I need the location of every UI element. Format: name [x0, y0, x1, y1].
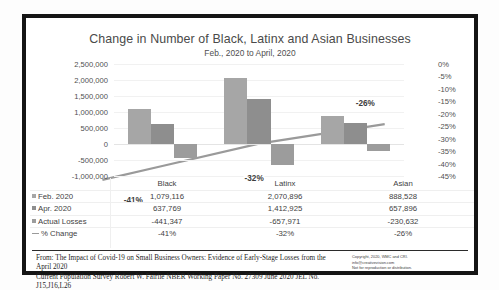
- y2-axis-tick-label: -30%: [438, 134, 478, 143]
- data-label-asian: -26%: [355, 98, 376, 107]
- bar-asian-series3: [367, 144, 390, 151]
- chart-subtitle: Feb., 2020 to April, 2020: [26, 48, 474, 58]
- column-header-asian: Asian: [348, 178, 458, 190]
- cell-feb2020-latinx: 2,070,896: [230, 191, 340, 203]
- slide-frame: Change in Number of Black, Latinx and As…: [22, 14, 478, 275]
- source-line-2: Current Population Survey Robert W. Fair…: [36, 273, 336, 290]
- gridline: [114, 64, 404, 65]
- chart-title: Change in Number of Black, Latinx and As…: [26, 32, 474, 46]
- cell-pctchange-latinx: -32%: [230, 228, 340, 240]
- gridline: [114, 96, 404, 97]
- legend-item-actual-losses: Actual Losses: [32, 216, 110, 228]
- legend-label: % Change: [41, 229, 77, 238]
- cell-losses-black: -441,347: [112, 216, 222, 228]
- bar-asian-series1: [321, 116, 344, 144]
- legend-label: Actual Losses: [38, 217, 87, 226]
- legend-item-apr-2020: Apr. 2020: [32, 203, 110, 215]
- cell-apr2020-black: 637,769: [112, 203, 222, 215]
- slide-page: Change in Number of Black, Latinx and As…: [0, 0, 499, 290]
- cell-apr2020-latinx: 1,412,925: [230, 203, 340, 215]
- y-axis-tick-label: 1,000,000: [44, 108, 108, 117]
- table-row: Actual Losses -441,347 -657,971 -230,632: [30, 215, 474, 228]
- column-header-black: Black: [112, 178, 222, 190]
- legend-swatch-icon: [32, 194, 36, 198]
- y-axis-tick-label: 1,500,000: [44, 92, 108, 101]
- legend-item-percent-change: % Change: [32, 228, 110, 240]
- y-axis-tick-label: 2,500,000: [44, 60, 108, 69]
- cell-pctchange-asian: -26%: [348, 228, 458, 240]
- y2-axis-tick-label: -5%: [438, 72, 478, 81]
- bar-black-series1: [128, 109, 151, 144]
- legend-swatch-icon: [32, 206, 36, 210]
- gridline: [114, 80, 404, 81]
- bar-black-series3: [174, 144, 197, 158]
- cell-pctchange-black: -41%: [112, 228, 222, 240]
- source-citation: From: The Impact of Covid-19 on Small Bu…: [36, 254, 336, 290]
- table-header-row: Black Latinx Asian: [30, 178, 474, 190]
- y2-axis-tick-label: 0%: [438, 60, 478, 69]
- cell-feb2020-asian: 888,528: [348, 191, 458, 203]
- table-row: Apr. 2020 637,769 1,412,925 657,896: [30, 202, 474, 215]
- footer-divider: [32, 250, 468, 251]
- zero-axis-line: [114, 144, 404, 145]
- bar-latinx-series1: [224, 78, 247, 144]
- y2-axis-tick-label: -25%: [438, 122, 478, 131]
- legend-item-feb-2020: Feb. 2020: [32, 191, 110, 203]
- y-axis-tick-label: 0: [44, 140, 108, 149]
- copyright-notice: Copyright, 2020, WMC and CRI. info@creat…: [352, 254, 472, 271]
- cell-losses-asian: -230,632: [348, 216, 458, 228]
- bar-asian-series2: [344, 123, 367, 144]
- y2-axis-tick-label: -10%: [438, 84, 478, 93]
- table-row: % Change -41% -32% -26%: [30, 227, 474, 240]
- bar-black-series2: [151, 124, 174, 144]
- data-table: Black Latinx Asian Feb. 2020 1,079,116 2…: [30, 178, 474, 248]
- legend-label: Apr. 2020: [38, 204, 71, 213]
- y2-axis-tick-label: -35%: [438, 147, 478, 156]
- bar-latinx-series2: [247, 99, 270, 144]
- y-axis-tick-label: 2,000,000: [44, 76, 108, 85]
- table-row: Feb. 2020 1,079,116 2,070,896 888,528: [30, 190, 474, 203]
- legend-line-icon: [32, 233, 39, 235]
- cell-apr2020-asian: 657,896: [348, 203, 458, 215]
- bar-latinx-series3: [271, 144, 294, 165]
- column-header-latinx: Latinx: [230, 178, 340, 190]
- y-axis-tick-label: -500,000: [44, 156, 108, 165]
- copyright-line-3: Not for reproduction or distribution.: [352, 265, 472, 271]
- cell-losses-latinx: -657,971: [230, 216, 340, 228]
- legend-swatch-icon: [32, 219, 36, 223]
- cell-feb2020-black: 1,079,116: [112, 191, 222, 203]
- gridline: [114, 160, 404, 161]
- legend-label: Feb. 2020: [38, 192, 73, 201]
- source-line-1: From: The Impact of Covid-19 on Small Bu…: [36, 254, 336, 273]
- chart-container: Change in Number of Black, Latinx and As…: [26, 18, 474, 271]
- plot-area: 2,500,0002,000,0001,500,0001,000,000500,…: [114, 64, 404, 176]
- y-axis-tick-label: 500,000: [44, 124, 108, 133]
- y2-axis-tick-label: -20%: [438, 109, 478, 118]
- y2-axis-tick-label: -40%: [438, 159, 478, 168]
- y2-axis-tick-label: -15%: [438, 97, 478, 106]
